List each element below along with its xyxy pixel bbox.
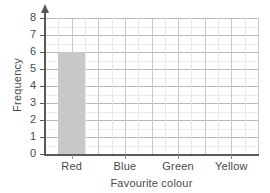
gridline-vertical — [125, 18, 126, 155]
y-axis-tick-label: 0 — [20, 148, 36, 159]
y-axis-tick-label: 6 — [20, 46, 36, 57]
y-axis-tick — [40, 35, 45, 36]
x-axis-tick — [178, 155, 179, 159]
y-axis-tick-label: 4 — [20, 80, 36, 91]
y-axis-tick-label: 3 — [20, 97, 36, 108]
gridline-vertical — [218, 18, 219, 155]
x-axis-category-label: Blue — [95, 160, 155, 172]
y-axis-tick — [40, 86, 45, 87]
gridline-vertical — [205, 18, 206, 155]
gridline-vertical — [112, 18, 113, 155]
y-axis-tick — [40, 103, 45, 104]
y-axis-tick — [40, 137, 45, 138]
bar-red — [58, 52, 85, 154]
x-axis-category-label: Yellow — [201, 160, 261, 172]
x-axis-tick — [72, 155, 73, 159]
x-axis-tick — [125, 155, 126, 159]
gridline-vertical — [245, 18, 246, 155]
gridline-vertical — [258, 18, 259, 155]
x-axis-line — [44, 154, 259, 156]
y-axis-tick-label: 2 — [20, 114, 36, 125]
y-axis-line — [44, 12, 46, 156]
y-axis-tick — [40, 154, 45, 155]
x-axis-category-label: Red — [42, 160, 102, 172]
x-axis-tick — [231, 155, 232, 159]
gridline-vertical — [178, 18, 179, 155]
bar-chart: Frequency Favourite colour 012345678RedB… — [0, 0, 270, 193]
gridline-vertical — [191, 18, 192, 155]
y-axis-tick — [40, 18, 45, 19]
y-axis-tick-label: 8 — [20, 12, 36, 23]
x-axis-title: Favourite colour — [45, 177, 258, 189]
gridline-vertical — [138, 18, 139, 155]
gridline-vertical — [98, 18, 99, 155]
y-axis-tick — [40, 120, 45, 121]
gridline-vertical — [165, 18, 166, 155]
y-axis-tick — [40, 52, 45, 53]
gridline-vertical — [85, 18, 86, 155]
y-axis-tick-label: 1 — [20, 131, 36, 142]
gridline-vertical — [152, 18, 153, 155]
y-axis-tick-label: 7 — [20, 29, 36, 40]
y-axis-tick — [40, 69, 45, 70]
y-axis-arrow-icon — [41, 4, 49, 13]
y-axis-tick-label: 5 — [20, 63, 36, 74]
gridline-vertical — [231, 18, 232, 155]
x-axis-category-label: Green — [148, 160, 208, 172]
